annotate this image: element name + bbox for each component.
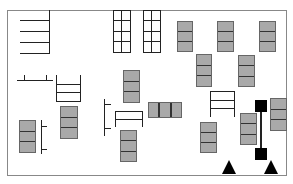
square-marker-top (255, 100, 267, 112)
grid-rack-1 (113, 10, 131, 53)
shelf-stack (120, 130, 137, 162)
shelf-stack (123, 70, 140, 103)
shelf-stack (217, 21, 234, 52)
triangle-marker (222, 160, 236, 174)
shelf-stack (177, 21, 193, 52)
shelf-stack (270, 98, 287, 131)
triangle-marker (264, 160, 278, 174)
shelf-stack (238, 55, 255, 87)
shelf-stack (259, 21, 276, 52)
square-marker-bottom (255, 148, 267, 160)
shelf-stack-horizontal (148, 102, 182, 118)
shelf-stack (19, 120, 36, 153)
shelf-stack (196, 54, 212, 87)
shelf-stack (240, 113, 257, 145)
grid-rack-2 (143, 10, 161, 53)
connector-line (260, 110, 262, 150)
shelf-stack (200, 122, 217, 153)
shelf-stack (60, 106, 78, 139)
